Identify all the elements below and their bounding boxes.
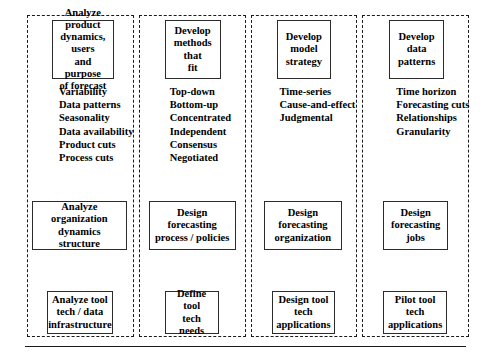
list-item: Granularity [396, 125, 469, 138]
swimlane-2: Develop methods that fit Top-down Bottom… [139, 15, 246, 337]
list-item: Bottom-up [170, 98, 231, 111]
lane-1-middle-box: Analyze organization dynamics structure [32, 201, 127, 250]
list-item: Variability [59, 85, 133, 98]
list-item: Time-series [280, 85, 356, 98]
lane-3-middle-box: Design forecasting organization [264, 201, 343, 250]
list-item: Process cuts [59, 151, 133, 164]
lane-3-attribute-list: Time-series Cause-and-effect Judgmental [280, 85, 356, 125]
lane-4-bottom-box-label: Pilot tool tech applications [388, 294, 442, 331]
list-item: Judgmental [280, 111, 356, 124]
swimlane-1: Analyze product dynamics, users and purp… [27, 15, 134, 337]
list-item: Negotiated [170, 151, 231, 164]
swimlane-container: Analyze product dynamics, users and purp… [27, 15, 469, 337]
list-item: Forecasting cuts [396, 98, 469, 111]
lane-3-top-box-label: Develop model strategy [286, 31, 322, 68]
lane-4-middle-box: Design forecasting jobs [383, 201, 448, 250]
list-item: Data patterns [59, 98, 133, 111]
list-item: Top-down [170, 85, 231, 98]
lane-2-top-box: Develop methods that fit [165, 20, 221, 79]
lane-4-top-box: Develop data patterns [389, 20, 444, 79]
lane-2-middle-box-label: Design forecasting process / policies [155, 207, 229, 244]
lane-2-bottom-box: Define tool tech needs [165, 291, 219, 334]
list-item: Product cuts [59, 138, 133, 151]
lane-2-bottom-box-label: Define tool tech needs [169, 288, 215, 337]
lane-4-bottom-box: Pilot tool tech applications [383, 291, 447, 334]
lane-3-bottom-box: Design tool tech applications [272, 291, 336, 334]
lane-4-middle-box-label: Design forecasting jobs [391, 207, 440, 244]
lane-2-attribute-list: Top-down Bottom-up Concentrated Independ… [170, 85, 231, 164]
lane-2-middle-box: Design forecasting process / policies [149, 201, 236, 250]
lane-4-top-box-label: Develop data patterns [398, 31, 435, 68]
lane-3-middle-box-label: Design forecasting organization [275, 207, 332, 244]
lane-3-bottom-box-label: Design tool tech applications [276, 294, 330, 331]
lane-1-top-box: Analyze product dynamics, users and purp… [52, 20, 114, 79]
swimlane-4: Develop data patterns Time horizon Forec… [362, 15, 469, 337]
forecasting-framework-diagram: Analyze product dynamics, users and purp… [0, 0, 486, 353]
list-item: Cause-and-effect [280, 98, 356, 111]
list-item: Relationships [396, 111, 469, 124]
list-item: Consensus [170, 138, 231, 151]
lane-1-bottom-box-label: Analyze tool tech / data infrastructure [48, 294, 111, 331]
list-item: Seasonality [59, 111, 133, 124]
list-item: Concentrated [170, 111, 231, 124]
lane-1-top-box-label: Analyze product dynamics, users and purp… [56, 7, 110, 92]
swimlane-3: Develop model strategy Time-series Cause… [251, 15, 358, 337]
lane-1-attribute-list: Variability Data patterns Seasonality Da… [59, 85, 133, 164]
list-item: Independent [170, 125, 231, 138]
lane-1-middle-box-label: Analyze organization dynamics structure [36, 201, 123, 250]
list-item: Data availability [59, 125, 133, 138]
lane-3-top-box: Develop model strategy [277, 20, 332, 79]
lane-1-bottom-box: Analyze tool tech / data infrastructure [47, 291, 113, 334]
lane-4-attribute-list: Time horizon Forecasting cuts Relationsh… [396, 85, 469, 138]
lane-2-top-box-label: Develop methods that fit [169, 25, 217, 74]
list-item: Time horizon [396, 85, 469, 98]
bottom-divider-rule [25, 346, 466, 347]
